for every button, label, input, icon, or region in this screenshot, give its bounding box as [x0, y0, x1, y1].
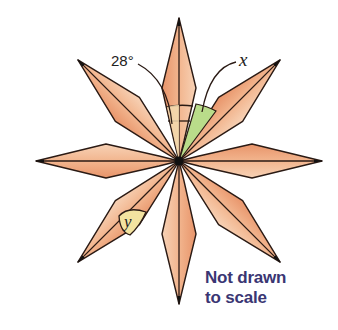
angle-x-label: x: [238, 49, 248, 70]
not-to-scale-note: Not drawn to scale: [205, 268, 286, 308]
angle-y-label: y: [122, 212, 132, 231]
note-line-1: Not drawn: [205, 268, 286, 288]
petal: [162, 161, 196, 305]
petal: [179, 144, 323, 178]
star-figure: 28° x y: [0, 0, 338, 330]
center-point: [175, 157, 184, 166]
note-line-2: to scale: [205, 288, 286, 308]
petal: [35, 144, 179, 178]
angle-28-label: 28°: [111, 52, 134, 69]
